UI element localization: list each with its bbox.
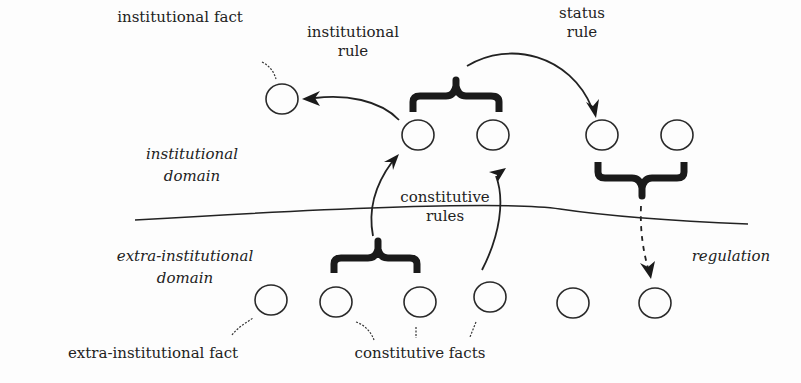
constitutive-facts-label: constitutive facts	[355, 344, 486, 362]
leader-line	[262, 62, 276, 79]
institutional-rule-label: rule	[338, 42, 369, 60]
institutional-fact-node	[266, 84, 298, 114]
constitutive-rules-label: constitutive	[400, 188, 490, 206]
arrowhead-icon	[489, 168, 506, 183]
status-node	[586, 120, 618, 150]
institutional-facts-diagram: institutional fact institutional rule st…	[0, 0, 801, 383]
institutional-node	[477, 120, 509, 150]
constitutive-rule-arrow	[371, 162, 392, 236]
extra-institutional-domain-label: extra-institutional	[117, 247, 254, 265]
status-rule-arrow	[467, 54, 592, 108]
extra-institutional-node	[557, 288, 589, 318]
status-rule-label: status	[559, 4, 605, 22]
institutional-domain-label: institutional	[146, 145, 238, 163]
constitutive-fact-node	[320, 287, 352, 317]
leader-line	[470, 322, 476, 337]
arrowhead-icon	[640, 261, 655, 279]
leader-line	[356, 322, 374, 340]
arrowhead-icon	[586, 99, 599, 118]
status-node	[661, 120, 693, 150]
constitutive-rule-brace	[334, 241, 417, 273]
arrowhead-icon	[384, 154, 399, 170]
institutional-fact-label: institutional fact	[117, 8, 243, 26]
extra-institutional-fact-label: extra-institutional fact	[68, 344, 238, 362]
regulation-arrow	[641, 206, 648, 268]
institutional-rule-arrow	[315, 97, 399, 120]
status-rule-label: rule	[567, 23, 598, 41]
extra-institutional-domain-label: domain	[157, 269, 213, 287]
constitutive-fact-node	[474, 282, 506, 312]
institutional-rule-brace	[413, 80, 499, 112]
leader-line	[232, 318, 253, 335]
institutional-rule-label: institutional	[307, 23, 399, 41]
regulation-label: regulation	[692, 247, 771, 265]
institutional-node	[402, 120, 434, 150]
institutional-domain-label: domain	[164, 167, 220, 185]
constitutive-fact-node	[404, 287, 436, 317]
constitutive-rules-label: rules	[426, 207, 464, 225]
extra-institutional-fact-node	[255, 285, 287, 315]
status-rule-brace	[598, 162, 684, 196]
diagram-canvas: institutional fact institutional rule st…	[0, 0, 801, 383]
regulated-node	[639, 288, 671, 318]
